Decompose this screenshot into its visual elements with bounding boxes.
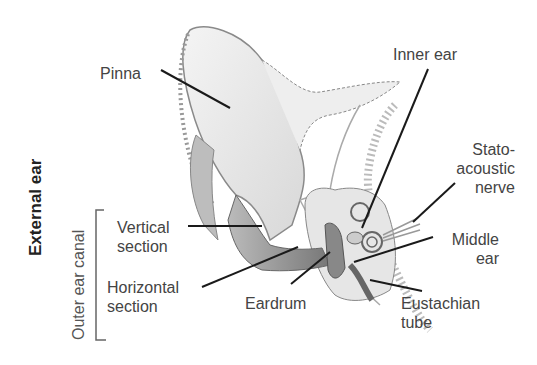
external-ear-label: External ear [26,159,46,256]
eustachian-tube-label: Eustachian tube [401,294,480,332]
eardrum-label: Eardrum [245,294,306,313]
stato-acoustic-nerve-leader [413,183,455,222]
vertical-section-label: Vertical section [117,218,169,256]
outer-ear-canal-bracket [96,210,106,340]
stato-acoustic-nerve-label: Stato- acoustic nerve [455,140,515,197]
middle-ear-label: Middle ear [433,230,499,268]
outer-ear-canal-label: Outer ear canal [70,230,88,340]
inner-ear-label: Inner ear [393,45,457,64]
horizontal-section-label: Horizontal section [107,278,179,316]
pinna-label: Pinna [100,64,141,83]
